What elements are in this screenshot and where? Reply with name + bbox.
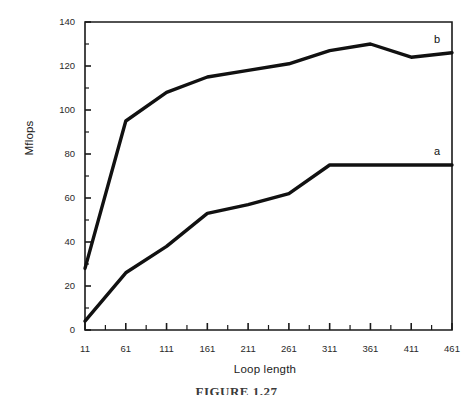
series-line-a (85, 165, 452, 321)
series-label-b: b (434, 33, 440, 45)
y-axis-tick-label: 40 (45, 236, 75, 247)
y-axis-tick-label: 140 (45, 16, 75, 27)
y-axis-tick-label: 120 (45, 60, 75, 71)
x-axis-tick-label: 411 (394, 343, 428, 354)
x-axis-tick-label: 461 (435, 343, 469, 354)
y-axis-tick-label: 100 (45, 104, 75, 115)
x-axis-tick-label: 161 (190, 343, 224, 354)
y-axis-tick-label: 60 (45, 192, 75, 203)
series-label-a: a (434, 145, 440, 157)
x-axis-tick-label: 61 (109, 343, 143, 354)
x-axis-tick-label: 361 (353, 343, 387, 354)
y-axis-title: Mflops (23, 93, 35, 183)
y-axis-tick-label: 0 (45, 324, 75, 335)
y-axis-tick-label: 80 (45, 148, 75, 159)
figure-container: Mflops Loop length FIGURE 1.27 020406080… (0, 0, 473, 395)
x-axis-tick-label: 111 (150, 343, 184, 354)
x-axis-tick-label: 261 (272, 343, 306, 354)
figure-caption: FIGURE 1.27 (0, 385, 473, 395)
x-axis-title: Loop length (140, 363, 390, 375)
series-line-b (85, 44, 452, 268)
x-axis-tick-label: 211 (231, 343, 265, 354)
x-axis-tick-label: 311 (313, 343, 347, 354)
y-axis-tick-label: 20 (45, 280, 75, 291)
x-axis-tick-label: 11 (68, 343, 102, 354)
